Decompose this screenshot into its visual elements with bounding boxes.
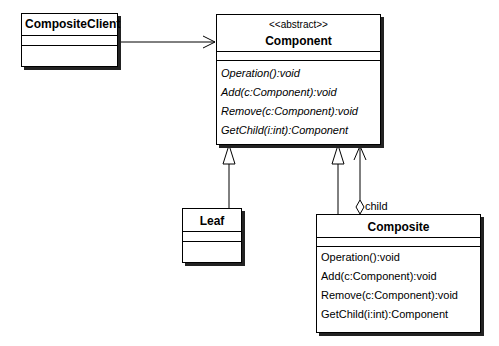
operations-separator [22, 45, 117, 46]
class-name: Composite [317, 215, 480, 237]
operation-item: GetChild(i:int):Component [221, 121, 376, 140]
attributes-compartment [217, 52, 380, 60]
class-leaf[interactable]: Leaf [182, 208, 242, 263]
operation-item: Operation():void [321, 248, 476, 267]
operation-item: GetChild(i:int):Component [321, 305, 476, 324]
class-stereotype: <<abstract>> [217, 15, 380, 30]
attributes-compartment [317, 238, 480, 246]
aggregation-role-label: child [365, 200, 388, 212]
class-name: Component [217, 30, 380, 51]
inheritance-triangle-icon [223, 145, 235, 164]
attributes-compartment [22, 36, 117, 45]
class-composite[interactable]: Composite Operation():void Add(c:Compone… [316, 214, 481, 333]
operation-item: Remove(c:Component):void [321, 286, 476, 305]
operation-item: Remove(c:Component):void [221, 102, 376, 121]
operations-compartment: Operation():void Add(c:Component):void R… [317, 247, 480, 326]
inheritance-triangle-icon [332, 145, 344, 164]
operations-compartment: Operation():void Add(c:Component):void R… [217, 61, 380, 142]
operation-item: Add(c:Component):void [321, 267, 476, 286]
class-composite-client[interactable]: CompositeClient [21, 13, 118, 67]
attributes-compartment [183, 232, 241, 241]
operation-item: Add(c:Component):void [221, 83, 376, 102]
aggregation-diamond-icon [356, 200, 364, 214]
class-component[interactable]: <<abstract>> Component Operation():void … [216, 14, 381, 145]
operation-item: Operation():void [221, 64, 376, 83]
operations-separator [183, 241, 241, 242]
class-name: Leaf [183, 209, 241, 231]
class-name: CompositeClient [22, 14, 117, 34]
